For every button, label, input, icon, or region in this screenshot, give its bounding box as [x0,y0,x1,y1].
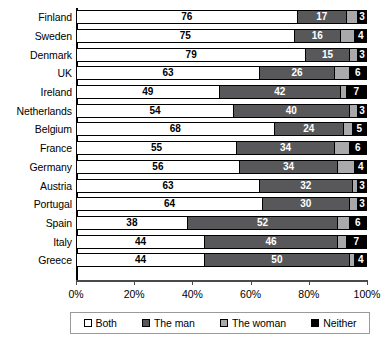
bar-segment: 24 [274,123,343,135]
bar-segment: 4 [354,254,366,266]
bar-segment [340,30,354,42]
legend-item[interactable]: Neither [311,317,356,329]
bar-segment: 44 [77,254,204,266]
x-axis-line [76,280,367,282]
bar-segment [337,217,349,229]
bar-row: UK63266 [0,64,391,83]
segment-value-label: 5 [356,124,362,134]
segment-value-label: 44 [135,255,146,265]
segment-value-label: 6 [355,218,361,228]
legend-swatch-icon [311,319,319,327]
bar-segment: 34 [239,161,337,173]
plot-area: Finland76173Sweden75164Denmark79153UK632… [0,8,391,280]
legend-swatch-icon [84,319,92,327]
segment-value-label: 32 [300,181,311,191]
bar-segment: 52 [187,217,337,229]
bar-row: Greece44504 [0,251,391,270]
legend-label: The man [154,317,195,329]
bar-row: France55346 [0,139,391,158]
segment-value-label: 49 [142,87,153,97]
bar-segment [334,142,348,154]
bar-row: Denmark79153 [0,45,391,64]
segment-value-label: 24 [303,124,314,134]
bar-segment: 46 [204,236,337,248]
segment-value-label: 50 [271,255,282,265]
segment-value-label: 44 [135,237,146,247]
x-axis-tick-label: 80% [298,288,319,300]
bar-segment: 40 [233,105,349,117]
bar-segment [337,161,354,173]
bar-track: 49427 [76,85,367,99]
legend-item[interactable]: The woman [220,317,286,329]
bar-row: Sweden75164 [0,27,391,46]
segment-value-label: 63 [162,68,173,78]
stacked-bar-chart: Finland76173Sweden75164Denmark79153UK632… [0,0,391,356]
segment-value-label: 34 [280,143,291,153]
x-axis-tick [134,280,135,285]
bar-track: 79153 [76,48,367,62]
legend-swatch-icon [142,319,150,327]
segment-value-label: 38 [126,218,137,228]
category-label: France [0,142,76,154]
bar-track: 44504 [76,253,367,267]
segment-value-label: 79 [186,50,197,60]
segment-value-label: 26 [292,68,303,78]
bar-track: 64303 [76,197,367,211]
segment-value-label: 52 [257,218,268,228]
bar-row: Austria63323 [0,176,391,195]
x-axis-tick-label: 0% [68,288,83,300]
bar-segment: 79 [77,49,305,61]
x-axis-tick-label: 20% [124,288,145,300]
bar-segment: 15 [305,49,348,61]
legend-label: Both [96,317,117,329]
segment-value-label: 56 [152,162,163,172]
segment-value-label: 3 [359,106,365,116]
bar-track: 63323 [76,179,367,193]
bar-row: Ireland49427 [0,83,391,102]
bar-row: Netherlands54403 [0,101,391,120]
bar-track: 68245 [76,122,367,136]
bar-segment: 4 [354,30,366,42]
bar-segment: 54 [77,105,233,117]
bar-segment [337,236,346,248]
bar-segment [346,11,358,23]
segment-value-label: 75 [180,31,191,41]
segment-value-label: 3 [359,199,365,209]
x-axis-tick-label: 60% [240,288,261,300]
category-label: Portugal [0,198,76,210]
bar-segment: 55 [77,142,236,154]
category-label: Finland [0,11,76,23]
category-label: Spain [0,217,76,229]
bar-segment: 38 [77,217,187,229]
bar-track: 44467 [76,235,367,249]
bar-segment: 42 [219,86,340,98]
legend-item[interactable]: The man [142,317,195,329]
segment-value-label: 7 [354,87,360,97]
bar-segment: 3 [357,198,366,210]
category-label: Austria [0,180,76,192]
bar-segment [343,123,352,135]
segment-value-label: 4 [358,162,364,172]
x-axis-tick-label: 100% [354,288,381,300]
bar-track: 55346 [76,141,367,155]
bar-segment: 6 [349,142,366,154]
bar-row: Germany56344 [0,158,391,177]
segment-value-label: 3 [359,12,365,22]
segment-value-label: 4 [358,255,364,265]
bar-segment: 16 [294,30,340,42]
segment-value-label: 6 [355,143,361,153]
category-label: Netherlands [0,105,76,117]
segment-value-label: 55 [151,143,162,153]
legend-item[interactable]: Both [84,317,117,329]
bar-segment: 5 [352,123,366,135]
bar-segment: 64 [77,198,262,210]
bar-track: 76173 [76,10,367,24]
x-axis-tick [251,280,252,285]
category-label: Ireland [0,86,76,98]
bar-segment: 68 [77,123,274,135]
category-label: Italy [0,236,76,248]
segment-value-label: 3 [359,181,365,191]
x-axis-tick [192,280,193,285]
segment-value-label: 17 [316,12,327,22]
bar-segment: 6 [349,67,366,79]
